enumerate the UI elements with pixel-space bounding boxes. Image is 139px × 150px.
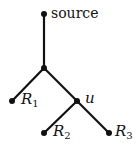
node-u	[74, 98, 80, 104]
label-r2: R2	[53, 124, 71, 141]
node-r3	[106, 130, 112, 136]
label-r2-sub: 2	[64, 130, 70, 141]
label-r1: R1	[21, 92, 39, 109]
label-source: source	[51, 6, 98, 20]
node-r1	[9, 98, 15, 104]
node-source	[41, 11, 47, 17]
node-r2	[41, 130, 47, 136]
edge-junction-u	[44, 68, 77, 101]
tree-diagram: source R1 u R2 R3	[0, 0, 139, 150]
node-junction	[41, 65, 47, 71]
label-r1-main: R	[21, 90, 32, 108]
label-u: u	[85, 91, 95, 106]
label-r3-main: R	[115, 122, 126, 140]
label-r1-sub: 1	[32, 98, 38, 109]
label-r3-sub: 3	[126, 130, 132, 141]
label-r3: R3	[115, 124, 133, 141]
label-r2-main: R	[53, 122, 64, 140]
